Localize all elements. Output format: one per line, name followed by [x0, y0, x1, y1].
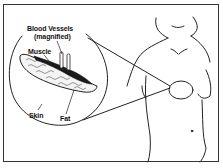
breast-circle	[169, 81, 193, 99]
torso-neck-right	[191, 17, 197, 36]
label-magnified: (magnified)	[34, 33, 71, 40]
label-muscle: Muscle	[28, 48, 51, 55]
torso-side-right	[198, 70, 211, 98]
connector-line-bottom	[83, 88, 170, 120]
fat-layer	[20, 54, 97, 92]
torso-side-left	[145, 76, 150, 162]
label-skin: Skin	[29, 112, 43, 119]
torso-chin	[172, 26, 184, 28]
leader-skin	[38, 104, 42, 110]
blood-vessel-2	[67, 54, 70, 70]
torso-collarbone-right	[179, 49, 187, 54]
torso-collarbone-left	[171, 49, 178, 54]
label-blood-vessels: Blood Vessels	[27, 25, 73, 32]
torso-shoulder-left	[127, 38, 168, 86]
torso-waist-right	[200, 100, 206, 162]
leader-blood-vessels	[57, 41, 62, 54]
torso-shoulder-right	[191, 36, 210, 62]
torso-neck-left	[156, 18, 168, 38]
blood-vessel-1	[60, 52, 63, 68]
leader-fat	[66, 90, 74, 114]
label-fat: Fat	[60, 115, 70, 122]
navel	[191, 130, 193, 132]
